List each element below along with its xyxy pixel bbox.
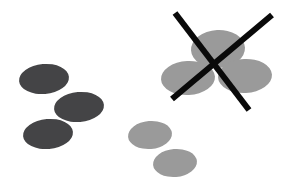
illustration-svg [0, 0, 284, 195]
figure-canvas [0, 0, 284, 195]
